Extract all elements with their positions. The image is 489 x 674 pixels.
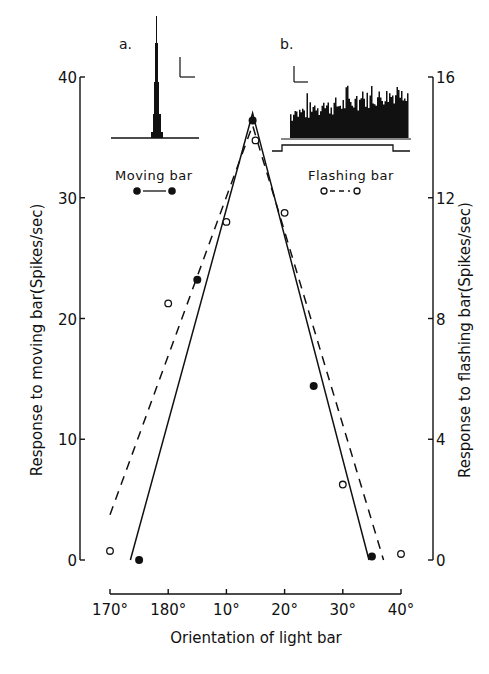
x-tick-label: 40° — [388, 601, 415, 619]
filled-circle-icon — [133, 187, 141, 195]
x-tick-label: 10° — [213, 601, 240, 619]
flashing-bar-data-point — [340, 481, 347, 488]
flashing-bar-data-point — [107, 548, 114, 555]
left-y-tick-label: 40 — [58, 69, 77, 87]
filled-circle-icon — [168, 187, 176, 195]
inset-b-label: b. — [280, 36, 293, 52]
scale-bar-icon — [180, 57, 195, 77]
moving-histogram-peak — [151, 16, 163, 138]
flashing-histogram-bars — [290, 86, 409, 138]
left-y-tick-label: 0 — [67, 552, 77, 570]
moving-bar-points — [135, 116, 376, 564]
inset-a-label: a. — [119, 36, 132, 52]
x-tick-label: 20° — [271, 601, 298, 619]
flashing-bar-data-point — [165, 300, 172, 307]
flashing-bar-data-point — [398, 551, 405, 558]
right-y-tick-label: 12 — [436, 190, 455, 208]
orientation-tuning-chart: 010203040 0481216 170°180°10°20°30°40° O… — [0, 0, 489, 674]
flashing-bar-points — [107, 137, 405, 557]
left-y-axis-title: Response to moving bar(Spikes/sec) — [28, 204, 46, 477]
right-y-axis-title: Response to flashing bar(Spikes/sec) — [456, 202, 474, 478]
inset-a-moving-histogram: a. — [111, 16, 199, 138]
legend-flashing-bar: Flashing bar — [308, 168, 394, 194]
flashing-bar-data-point — [281, 210, 288, 217]
stimulus-step-trace — [272, 145, 410, 151]
legend-flashing-label: Flashing bar — [308, 168, 394, 183]
x-tick-label: 170° — [92, 601, 128, 619]
right-y-axis: 0481216 — [428, 69, 455, 570]
flashing-bar-data-point — [223, 219, 230, 226]
moving-bar-data-point — [368, 552, 376, 560]
x-axis: 170°180°10°20°30°40° — [92, 589, 414, 619]
x-tick-label: 180° — [150, 601, 186, 619]
legend-moving-bar: Moving bar — [115, 168, 193, 195]
moving-bar-data-point — [310, 382, 318, 390]
moving-bar-data-point — [193, 276, 201, 284]
moving-bar-data-point — [135, 556, 143, 564]
inset-b-flashing-histogram: b. — [272, 36, 411, 151]
open-circle-icon — [321, 188, 327, 194]
left-y-axis: 010203040 — [58, 69, 85, 570]
right-y-tick-label: 4 — [436, 431, 446, 449]
x-axis-title: Orientation of light bar — [170, 629, 342, 647]
open-circle-icon — [354, 188, 360, 194]
moving-bar-data-point — [249, 116, 257, 124]
left-y-tick-label: 20 — [58, 311, 77, 329]
left-y-tick-label: 10 — [58, 431, 77, 449]
x-tick-label: 30° — [330, 601, 357, 619]
flashing-bar-data-point — [252, 137, 259, 144]
right-y-tick-label: 16 — [436, 69, 455, 87]
legend-moving-label: Moving bar — [115, 168, 193, 183]
right-y-tick-label: 0 — [436, 552, 446, 570]
right-y-tick-label: 8 — [436, 311, 446, 329]
scale-bar-icon — [294, 66, 308, 82]
left-y-tick-label: 30 — [58, 190, 77, 208]
